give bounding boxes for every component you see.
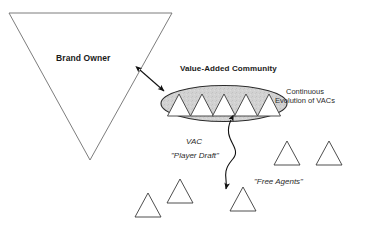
diagram-graphics: [0, 0, 382, 227]
free-agent-triangle: [167, 179, 193, 203]
brand-owner-label: Brand Owner: [56, 54, 110, 64]
free-agent-triangle: [316, 141, 342, 165]
player-draft-label: "Player Draft": [171, 151, 219, 160]
free-agent-triangle: [135, 193, 161, 217]
value-added-community-label: Value-Added Community: [180, 64, 277, 73]
diagram-canvas: Brand Owner Value-Added Community Contin…: [0, 0, 382, 227]
free-agent-triangles: [135, 141, 342, 217]
vac-label: VAC: [186, 137, 202, 146]
brand-owner-community-arrow: [140, 70, 164, 91]
brand-owner-triangle: [9, 13, 172, 160]
free-agents-label: "Free Agents": [254, 177, 303, 186]
free-agent-triangle: [230, 187, 256, 211]
free-agent-triangle: [274, 141, 300, 165]
player-draft-arrow: [226, 120, 236, 189]
continuous-evolution-line-2: Evolution of VACs: [275, 97, 335, 106]
continuous-evolution-label: Continuous Evolution of VACs: [275, 88, 335, 105]
